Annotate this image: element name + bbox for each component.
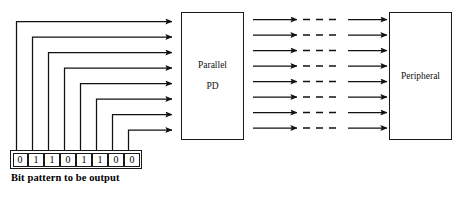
diagram-canvas: Parallel PD Peripheral 01101100 Bit patt… xyxy=(0,0,463,199)
input-wire-bit-0 xyxy=(17,22,173,151)
bit-cell: 0 xyxy=(60,153,75,167)
bit-cell: 0 xyxy=(13,153,28,167)
output-wire-dash-group xyxy=(303,20,342,129)
peripheral-box: Peripheral xyxy=(389,12,452,140)
input-wire-bit-2 xyxy=(49,53,173,151)
input-wire-group xyxy=(17,22,173,151)
input-wire-bit-6 xyxy=(113,115,173,151)
peripheral-box-label: Peripheral xyxy=(401,71,440,81)
input-wire-bit-7 xyxy=(129,130,173,150)
bit-cell: 0 xyxy=(124,153,139,167)
bit-pattern-caption: Bit pattern to be output xyxy=(11,172,120,183)
pd-box-label-line2: PD xyxy=(206,81,218,93)
pd-box-label-line1: Parallel xyxy=(198,60,227,72)
bit-register: 01101100 xyxy=(10,150,142,169)
output-wire-right-group xyxy=(348,20,387,129)
input-wire-bit-5 xyxy=(97,99,173,150)
bit-cell: 1 xyxy=(28,153,43,167)
bit-cell: 1 xyxy=(92,153,107,167)
input-wire-bit-1 xyxy=(33,37,173,150)
output-wire-left-group xyxy=(253,20,297,129)
bit-cell: 1 xyxy=(76,153,91,167)
bit-cell: 0 xyxy=(108,153,123,167)
input-wire-bit-4 xyxy=(81,84,173,151)
bit-cell: 1 xyxy=(44,153,59,167)
parallel-pd-box: Parallel PD xyxy=(181,12,244,140)
